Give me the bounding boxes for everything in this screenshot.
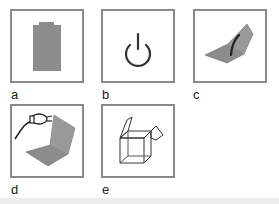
power-icon <box>103 11 173 81</box>
label-e: e <box>102 183 109 196</box>
open-laptop-with-curve-icon <box>195 11 265 81</box>
label-c: c <box>193 88 200 101</box>
panel-d <box>10 104 84 178</box>
open-box-icon <box>103 106 173 176</box>
panel-e <box>101 104 175 178</box>
panel-b <box>101 9 175 83</box>
label-a: a <box>11 88 18 101</box>
laptop-with-power-plug-icon <box>12 106 82 176</box>
panel-a <box>10 9 84 83</box>
label-d: d <box>11 183 18 196</box>
battery-icon <box>12 11 82 81</box>
bottom-strip <box>0 198 279 204</box>
panel-c <box>193 9 267 83</box>
label-b: b <box>102 88 109 101</box>
